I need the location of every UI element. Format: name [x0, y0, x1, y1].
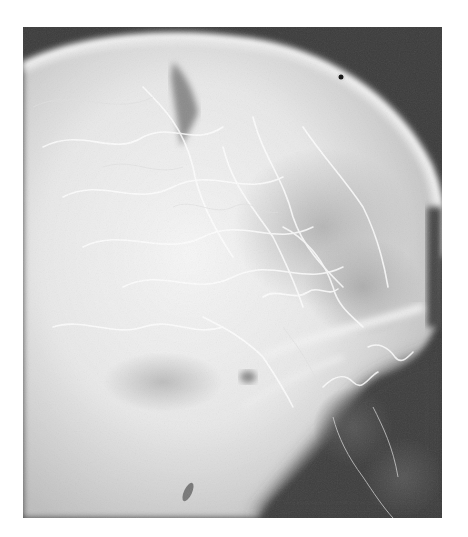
xray-image — [23, 27, 442, 518]
skull-xray-illustration — [23, 27, 442, 518]
